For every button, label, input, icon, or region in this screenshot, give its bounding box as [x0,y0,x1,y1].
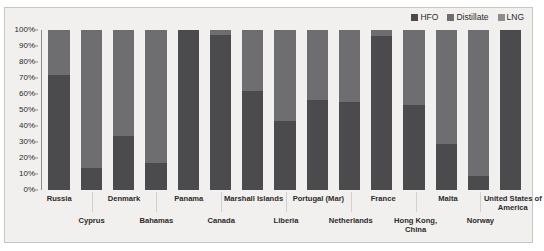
y-axis-tick-label: 70% [19,74,35,82]
bar-segment-hfo[interactable] [307,100,328,190]
bar-column[interactable] [269,30,301,190]
bar-segment-distillate[interactable] [81,30,102,168]
y-axis-tick-label: 0% [23,186,35,194]
x-axis-separator [286,192,287,212]
bar-segment-distillate[interactable] [274,30,295,121]
x-axis-label: Norway [450,216,512,225]
legend-item-hfo[interactable]: HFO [411,13,438,22]
bar-column[interactable] [333,30,365,190]
stacked-bar[interactable] [436,30,457,190]
y-axis-tick-mark [35,78,38,79]
bar-segment-hfo[interactable] [468,176,489,190]
bar-column[interactable] [172,30,204,190]
stacked-bar[interactable] [81,30,102,190]
bar-column[interactable] [43,30,75,190]
x-axis-labels: RussiaCyprusDenmarkBahamasPanamaCanadaMa… [43,192,529,250]
bar-segment-distillate[interactable] [468,30,489,176]
stacked-bar[interactable] [274,30,295,190]
x-axis-label: Bahamas [126,216,188,225]
y-axis-tick-label: 30% [19,138,35,146]
plot-area [41,30,527,190]
bar-segment-hfo[interactable] [178,30,199,190]
x-axis-separator [221,192,222,212]
bar-segment-hfo[interactable] [145,163,166,190]
bar-column[interactable] [366,30,398,190]
stacked-bar[interactable] [242,30,263,190]
y-axis-tick-label: 10% [19,170,35,178]
bar-segment-hfo[interactable] [113,136,134,190]
y-axis-tick-mark [35,110,38,111]
x-axis-label: Liberia [255,216,317,225]
bar-segment-distillate[interactable] [145,30,166,163]
legend-item-lng[interactable]: LNG [498,13,524,22]
y-axis-tick-mark [35,142,38,143]
bar-column[interactable] [108,30,140,190]
legend-label: LNG [507,13,524,22]
bar-segment-hfo[interactable] [500,30,521,190]
x-axis-label: France [352,194,414,203]
chart-panel: HFODistillateLNG 100%90%80%70%60%50%40%3… [4,7,533,243]
stacked-bar[interactable] [145,30,166,190]
legend-label: HFO [420,13,438,22]
x-axis-label: Cyprus [61,216,123,225]
bar-segment-hfo[interactable] [339,102,360,190]
bar-column[interactable] [430,30,462,190]
legend-label: Distillate [456,13,488,22]
legend-swatch-icon [447,14,454,21]
legend-swatch-icon [498,14,505,21]
x-axis-separator [92,192,93,212]
bar-segment-hfo[interactable] [371,36,392,190]
y-axis-tick-mark [35,62,38,63]
y-axis-tick-mark [35,30,38,31]
bar-column[interactable] [462,30,494,190]
stacked-bar[interactable] [48,30,69,190]
x-axis-label: Portugal (Mar) [288,194,350,203]
bar-column[interactable] [398,30,430,190]
bar-segment-hfo[interactable] [48,75,69,190]
y-axis-tick-label: 20% [19,154,35,162]
x-axis-label: Russia [28,194,90,203]
bar-segment-distillate[interactable] [242,30,263,91]
legend-swatch-icon [411,14,418,21]
x-axis-label: Canada [190,216,252,225]
bar-segment-distillate[interactable] [48,30,69,75]
stacked-bar[interactable] [371,30,392,190]
bar-segment-distillate[interactable] [307,30,328,100]
x-axis-label: Denmark [93,194,155,203]
bar-group [43,30,527,190]
bar-segment-hfo[interactable] [210,35,231,190]
stacked-bar[interactable] [500,30,521,190]
bar-column[interactable] [301,30,333,190]
stacked-bar[interactable] [339,30,360,190]
bar-column[interactable] [495,30,527,190]
bar-segment-distillate[interactable] [436,30,457,144]
bar-segment-distillate[interactable] [339,30,360,102]
bar-segment-distillate[interactable] [113,30,134,136]
stacked-bar[interactable] [307,30,328,190]
y-axis-tick-label: 80% [19,58,35,66]
y-axis-tick-label: 50% [19,106,35,114]
bar-column[interactable] [140,30,172,190]
stacked-bar[interactable] [210,30,231,190]
stacked-bar[interactable] [113,30,134,190]
y-axis-tick-label: 100% [15,26,35,34]
y-axis-tick-label: 60% [19,90,35,98]
bar-segment-hfo[interactable] [403,105,424,190]
bar-segment-hfo[interactable] [436,144,457,190]
bar-column[interactable] [75,30,107,190]
bar-segment-distillate[interactable] [403,30,424,105]
x-axis-label: Netherlands [320,216,382,225]
stacked-bar[interactable] [468,30,489,190]
stacked-bar[interactable] [178,30,199,190]
bar-column[interactable] [204,30,236,190]
bar-column[interactable] [237,30,269,190]
legend-item-distillate[interactable]: Distillate [447,13,488,22]
y-axis-tick-mark [35,174,38,175]
x-axis-label: Hong Kong, China [385,216,447,234]
bar-segment-hfo[interactable] [242,91,263,190]
y-axis-tick-mark [35,126,38,127]
bar-segment-hfo[interactable] [81,168,102,190]
stacked-bar[interactable] [403,30,424,190]
bar-segment-hfo[interactable] [274,121,295,190]
